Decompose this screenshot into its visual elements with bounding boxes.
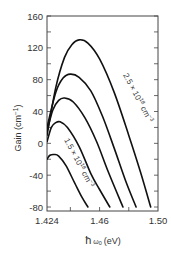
gain-curve-3 <box>47 98 123 207</box>
x-tick-label: 1.46 <box>90 215 109 226</box>
annotation-top-density: 2.5 × 1018 cm−3 <box>121 71 155 124</box>
gain-curves <box>47 40 151 207</box>
x-axis-ticks: 1.4241.461.50 <box>35 207 167 226</box>
y-tick-label: 40 <box>32 106 43 117</box>
x-axis-title: ħω0(eV) <box>85 234 121 246</box>
gain-chart: 16012080400-40-80 1.4241.461.50 Gain (cm… <box>0 0 171 256</box>
gain-curve-2 <box>47 74 136 207</box>
y-tick-label: 160 <box>27 11 43 22</box>
y-tick-label: 0 <box>38 138 43 149</box>
annotation-bottom-density: 1.5 × 1018 cm−3 <box>62 136 96 189</box>
y-tick-label: -80 <box>29 202 43 213</box>
y-tick-label: -40 <box>29 170 43 181</box>
x-tick-label: 1.424 <box>35 215 59 226</box>
x-tick-label: 1.50 <box>149 215 168 226</box>
y-tick-label: 120 <box>27 42 43 53</box>
y-tick-label: 80 <box>32 74 43 85</box>
y-axis-title: Gain (cm−1) <box>12 105 23 152</box>
